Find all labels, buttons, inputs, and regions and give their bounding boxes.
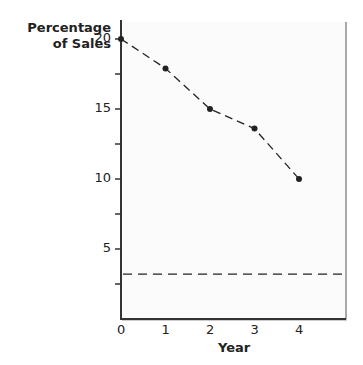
x-tick-label: 2 xyxy=(206,323,214,337)
y-tick-label: 15 xyxy=(94,101,111,115)
y-tick-label: 5 xyxy=(103,241,111,255)
x-tick-label: 0 xyxy=(117,323,125,337)
x-tick-label: 1 xyxy=(162,323,170,337)
data-point-marker xyxy=(163,65,169,71)
x-axis-title: Year xyxy=(218,340,250,355)
chart: Percentage of Sales 5101520 01234 Year xyxy=(0,0,363,365)
data-point-marker xyxy=(207,106,213,112)
plot-area xyxy=(0,0,363,365)
y-tick-label: 10 xyxy=(94,171,111,185)
data-point-marker xyxy=(252,126,258,132)
x-tick-label: 4 xyxy=(295,323,303,337)
data-point-marker xyxy=(296,176,302,182)
data-point-marker xyxy=(118,36,124,42)
x-tick-label: 3 xyxy=(251,323,259,337)
y-tick-label: 20 xyxy=(94,31,111,45)
